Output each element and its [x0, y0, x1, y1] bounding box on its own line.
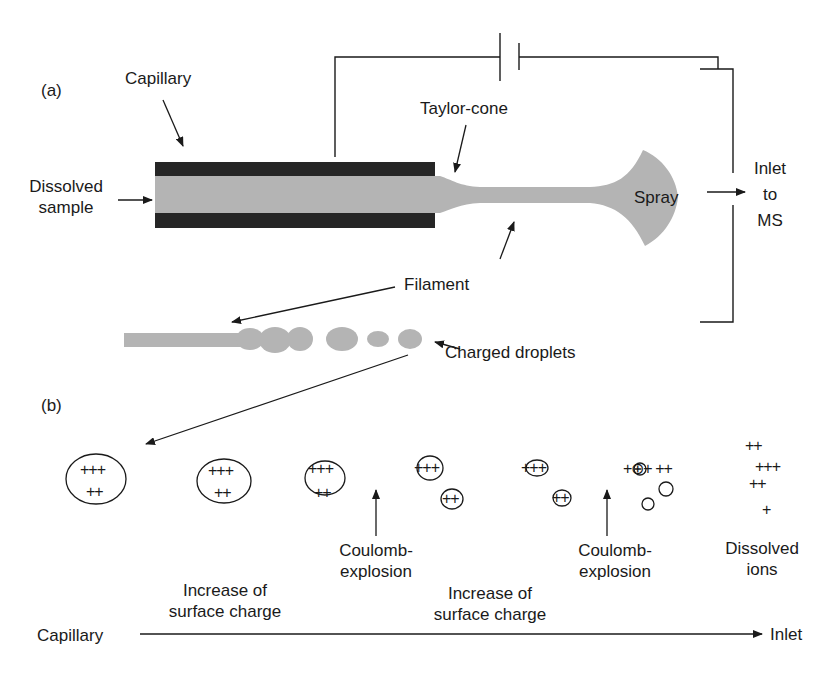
droplet-2-charges-top: +++ — [208, 463, 233, 479]
coulomb-explosion-label-2: Coulomb- explosion — [565, 540, 665, 582]
inlet-to-ms-label: Inlet to MS — [745, 156, 795, 234]
fission-1-big-charges: +++ — [414, 460, 439, 476]
capillary-label: Capillary — [125, 68, 191, 89]
ion-group-2: +++ — [755, 459, 780, 475]
filament-arrow — [500, 222, 514, 259]
droplet-1-charges-top: +++ — [80, 462, 105, 478]
droplet-3-charges-bottom: ++ — [314, 485, 331, 501]
droplet-outlines — [66, 454, 673, 510]
ion-group-3: ++ — [749, 476, 766, 492]
increase-surface-charge-label-1: Increase of surface charge — [165, 580, 285, 622]
fission-2-big-charges: +++ — [521, 460, 546, 476]
droplet-zoom-arrow — [146, 355, 408, 444]
coulomb-explosion-label-1: Coulomb- explosion — [326, 540, 426, 582]
capillary-arrow — [163, 100, 183, 146]
filament-label: Filament — [404, 274, 469, 295]
droplet-2-charges-bottom: ++ — [214, 485, 231, 501]
filament-detail-arrow — [232, 287, 395, 322]
ion-evaporation-row: +⊕+ ++ — [623, 461, 672, 477]
dissolved-ions-label: Dissolved ions — [712, 538, 812, 580]
capillary-tube — [155, 162, 435, 228]
droplet-3-charges-top: +++ — [308, 461, 333, 477]
droplet-1-charges-bottom: ++ — [86, 484, 103, 500]
panel-a-label: (a) — [41, 80, 62, 101]
spray-label: Spray — [634, 187, 678, 208]
panel-b-label: (b) — [41, 395, 62, 416]
axis-end-label: Inlet — [770, 624, 802, 645]
axis-start-label: Capillary — [37, 625, 103, 646]
charged-droplets-label: Charged droplets — [445, 342, 575, 363]
fission-2-small-charges: ++ — [552, 490, 569, 506]
ion-group-1: ++ — [745, 438, 762, 454]
taylor-cone-arrow — [455, 125, 466, 172]
fission-1-small-charges: ++ — [442, 491, 459, 507]
filament-breakup — [124, 327, 422, 353]
taylor-cone-label: Taylor-cone — [420, 98, 508, 119]
increase-surface-charge-label-2: Increase of surface charge — [425, 583, 555, 625]
ion-group-4: + — [762, 502, 770, 518]
dissolved-sample-label: Dissolved sample — [26, 176, 106, 218]
